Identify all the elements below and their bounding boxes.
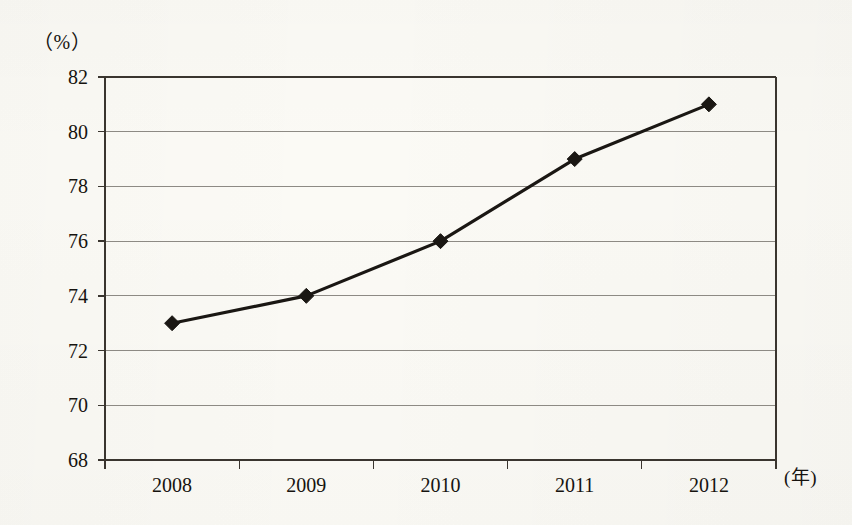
gridlines-group xyxy=(105,77,776,460)
x-axis-tick-label: 2008 xyxy=(152,474,192,496)
x-axis-tick-label: 2011 xyxy=(555,474,594,496)
x-axis-ticks xyxy=(105,460,776,469)
y-axis-tick-label: 74 xyxy=(68,285,88,307)
x-axis-tick-label: 2009 xyxy=(286,474,326,496)
y-axis-ticks xyxy=(98,77,105,460)
series-line xyxy=(172,104,709,323)
line-chart-svg: 6870727476788082 20082009201020112012 xyxy=(0,0,852,525)
y-axis-tick-labels: 6870727476788082 xyxy=(68,66,88,471)
y-axis-tick-label: 76 xyxy=(68,230,88,252)
y-axis-tick-label: 72 xyxy=(68,340,88,362)
data-point-marker xyxy=(299,288,314,303)
x-axis-tick-label: 2010 xyxy=(421,474,461,496)
chart-canvas: （%） (年) 6870727476788082 200820092010201… xyxy=(0,0,852,525)
x-axis-tick-label: 2012 xyxy=(689,474,729,496)
y-axis-tick-label: 68 xyxy=(68,449,88,471)
data-point-marker xyxy=(701,97,716,112)
data-point-marker xyxy=(567,152,582,167)
y-axis-tick-label: 80 xyxy=(68,121,88,143)
data-series-line xyxy=(172,104,709,323)
data-point-marker xyxy=(165,316,180,331)
axis-frame xyxy=(105,77,776,460)
y-axis-tick-label: 82 xyxy=(68,66,88,88)
y-axis-tick-label: 78 xyxy=(68,175,88,197)
data-point-marker xyxy=(433,234,448,249)
plot-area: 6870727476788082 20082009201020112012 xyxy=(0,0,852,525)
y-axis-tick-label: 70 xyxy=(68,394,88,416)
x-axis-tick-labels: 20082009201020112012 xyxy=(152,474,729,496)
